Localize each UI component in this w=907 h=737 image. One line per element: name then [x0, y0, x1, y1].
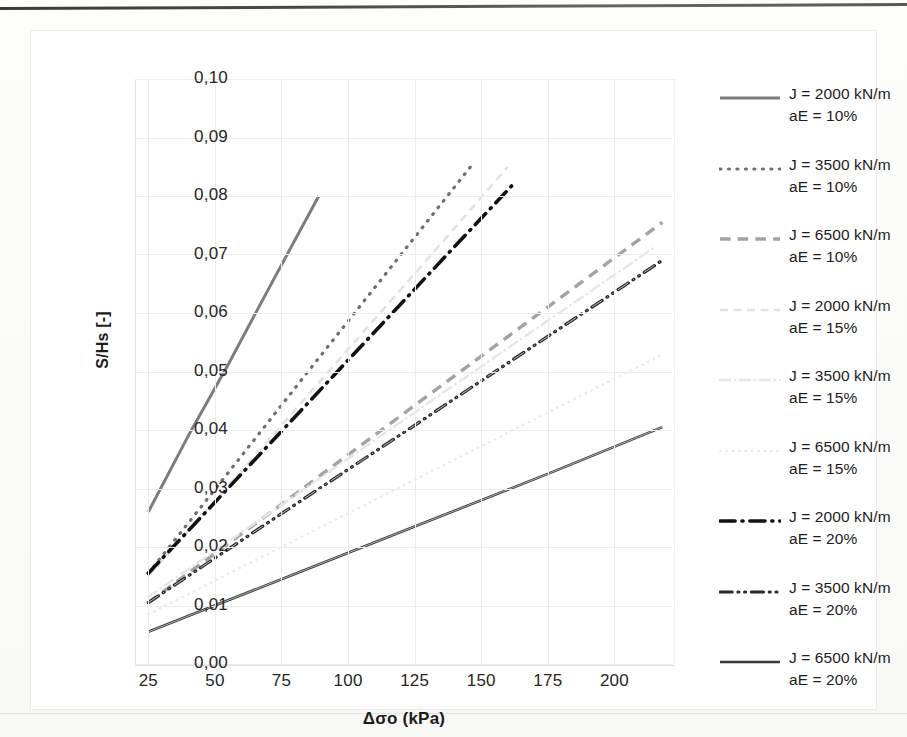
y-axis-tick-label: 0,03 [150, 478, 228, 498]
y-axis-tick-label: 0,06 [150, 302, 228, 322]
legend-label: J = 3500 kN/maE = 15% [789, 365, 907, 409]
y-axis-tick-label: 0,05 [150, 361, 228, 381]
legend-label: J = 6500 kN/maE = 15% [789, 436, 907, 480]
legend-label-line1: J = 3500 kN/m [789, 365, 907, 387]
legend-item-7[interactable]: J = 2000 kN/maE = 20% [719, 506, 907, 560]
chart-legend: J = 2000 kN/maE = 10%J = 3500 kN/maE = 1… [719, 83, 907, 723]
legend-swatch-icon [719, 373, 781, 387]
legend-label: J = 6500 kN/maE = 10% [789, 224, 907, 268]
legend-label: J = 3500 kN/maE = 20% [789, 577, 907, 621]
legend-item-3[interactable]: J = 6500 kN/maE = 10% [719, 224, 907, 278]
x-axis-tick-label: 175 [518, 671, 578, 691]
legend-item-8[interactable]: J = 3500 kN/maE = 20% [719, 577, 907, 631]
y-axis-tick-label: 0,07 [150, 244, 228, 264]
x-axis-tick-label: 125 [385, 671, 445, 691]
gridline-vertical [148, 79, 149, 664]
legend-label-line1: J = 6500 kN/m [789, 647, 907, 669]
legend-label-line2: aE = 20% [789, 528, 907, 550]
legend-label-line2: aE = 20% [789, 669, 907, 691]
legend-swatch-icon [719, 303, 781, 317]
legend-swatch-icon [719, 444, 781, 458]
legend-label-line2: aE = 20% [789, 599, 907, 621]
legend-label-line1: J = 2000 kN/m [789, 506, 907, 528]
x-axis-title: Δσo (kPa) [135, 709, 673, 729]
legend-label-line1: J = 2000 kN/m [789, 295, 907, 317]
legend-swatch-icon [719, 585, 781, 599]
legend-label-line1: J = 6500 kN/m [789, 436, 907, 458]
legend-label: J = 2000 kN/maE = 15% [789, 295, 907, 339]
legend-label-line2: aE = 10% [789, 246, 907, 268]
legend-swatch-icon [719, 232, 781, 246]
y-axis-tick-label: 0,10 [150, 68, 228, 88]
y-axis-tick-label: 0,00 [150, 653, 228, 673]
x-axis-tick-label: 200 [584, 671, 644, 691]
x-axis-tick-label: 100 [318, 671, 378, 691]
legend-item-5[interactable]: J = 3500 kN/maE = 15% [719, 365, 907, 419]
legend-label: J = 3500 kN/maE = 10% [789, 154, 907, 198]
legend-swatch-icon [719, 514, 781, 528]
gridline-vertical [281, 79, 282, 664]
legend-label: J = 2000 kN/maE = 20% [789, 506, 907, 550]
gridline-vertical [548, 79, 549, 664]
y-axis-title: S/Hs [-] [94, 260, 112, 420]
legend-label-line2: aE = 10% [789, 105, 907, 127]
legend-swatch-icon [719, 162, 781, 176]
gridline-vertical [415, 79, 416, 664]
y-axis-tick-label: 0,08 [150, 185, 228, 205]
y-axis-tick-label: 0,01 [150, 595, 228, 615]
y-axis-tick-label: 0,09 [150, 127, 228, 147]
legend-label-line1: J = 3500 kN/m [789, 577, 907, 599]
legend-label: J = 2000 kN/maE = 10% [789, 83, 907, 127]
legend-label-line1: J = 3500 kN/m [789, 154, 907, 176]
gridline-vertical [348, 79, 349, 664]
legend-swatch-icon [719, 655, 781, 669]
legend-item-2[interactable]: J = 3500 kN/maE = 10% [719, 154, 907, 208]
legend-label-line1: J = 6500 kN/m [789, 224, 907, 246]
gridline-vertical [481, 79, 482, 664]
legend-label-line1: J = 2000 kN/m [789, 83, 907, 105]
legend-item-6[interactable]: J = 6500 kN/maE = 15% [719, 436, 907, 490]
legend-item-9[interactable]: J = 6500 kN/maE = 20% [719, 647, 907, 701]
legend-item-4[interactable]: J = 2000 kN/maE = 15% [719, 295, 907, 349]
gridline-vertical [614, 79, 615, 664]
x-axis-tick-label: 25 [118, 671, 178, 691]
legend-swatch-icon [719, 91, 781, 105]
legend-item-1[interactable]: J = 2000 kN/maE = 10% [719, 83, 907, 137]
legend-label-line2: aE = 15% [789, 387, 907, 409]
y-axis-tick-label: 0,02 [150, 536, 228, 556]
x-axis-tick-label: 50 [185, 671, 245, 691]
chart-frame: 0,100,090,080,070,060,050,040,030,020,01… [30, 30, 877, 710]
legend-label-line2: aE = 15% [789, 317, 907, 339]
legend-label-line2: aE = 15% [789, 458, 907, 480]
y-axis-tick-label: 0,04 [150, 419, 228, 439]
x-axis-tick-label: 150 [451, 671, 511, 691]
x-axis-tick-label: 75 [251, 671, 311, 691]
legend-label-line2: aE = 10% [789, 176, 907, 198]
scan-edge-top [0, 3, 907, 10]
legend-label: J = 6500 kN/maE = 20% [789, 647, 907, 691]
